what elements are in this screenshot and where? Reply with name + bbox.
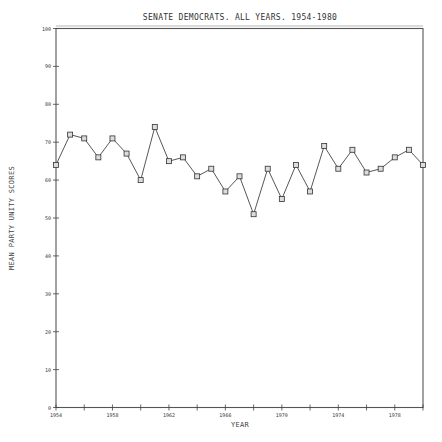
square-marker xyxy=(336,166,341,171)
x-axis: 1954195819621966197019741978 xyxy=(50,405,423,418)
y-tick-label: 60 xyxy=(45,177,51,183)
square-marker xyxy=(308,189,313,194)
x-tick-label: 1966 xyxy=(219,412,231,418)
chart-title: SENATE DEMOCRATS. ALL YEARS. 1954-1980 xyxy=(143,13,337,22)
y-tick-label: 30 xyxy=(45,291,51,297)
square-marker xyxy=(166,159,171,164)
plot-frame xyxy=(56,29,423,408)
x-tick-label: 1962 xyxy=(163,412,175,418)
square-marker xyxy=(378,166,383,171)
square-marker xyxy=(68,132,73,137)
square-marker xyxy=(421,162,426,167)
data-series xyxy=(54,125,426,217)
y-tick-label: 10 xyxy=(45,367,51,373)
square-marker xyxy=(364,170,369,175)
y-tick-label: 90 xyxy=(45,63,51,69)
y-tick-label: 70 xyxy=(45,139,51,145)
square-marker xyxy=(237,174,242,179)
line-chart: SENATE DEMOCRATS. ALL YEARS. 1954-1980 0… xyxy=(0,0,442,442)
square-marker xyxy=(181,155,186,160)
square-marker xyxy=(279,197,284,202)
square-marker xyxy=(251,212,256,217)
square-marker xyxy=(152,125,157,130)
x-axis-label: YEAR xyxy=(231,421,250,429)
square-marker xyxy=(195,174,200,179)
square-marker xyxy=(209,166,214,171)
square-marker xyxy=(350,147,355,152)
x-tick-label: 1974 xyxy=(332,412,344,418)
square-marker xyxy=(406,147,411,152)
y-tick-label: 20 xyxy=(45,329,51,335)
square-marker xyxy=(96,155,101,160)
x-tick-label: 1954 xyxy=(50,412,62,418)
x-tick-label: 1978 xyxy=(389,412,401,418)
square-marker xyxy=(82,136,87,141)
y-tick-label: 80 xyxy=(45,101,51,107)
square-marker xyxy=(265,166,270,171)
y-tick-label: 50 xyxy=(45,215,51,221)
square-marker xyxy=(138,178,143,183)
square-marker xyxy=(293,162,298,167)
square-marker xyxy=(54,162,59,167)
y-axis-label: MEAN PARTY UNITY SCORES xyxy=(8,166,16,270)
square-marker xyxy=(392,155,397,160)
x-tick-label: 1970 xyxy=(276,412,288,418)
square-marker xyxy=(124,151,129,156)
square-marker xyxy=(223,189,228,194)
y-tick-label: 0 xyxy=(48,405,51,411)
square-marker xyxy=(322,143,327,148)
square-marker xyxy=(110,136,115,141)
x-tick-label: 1958 xyxy=(106,412,118,418)
y-tick-label: 100 xyxy=(42,26,51,32)
y-tick-label: 40 xyxy=(45,253,51,259)
